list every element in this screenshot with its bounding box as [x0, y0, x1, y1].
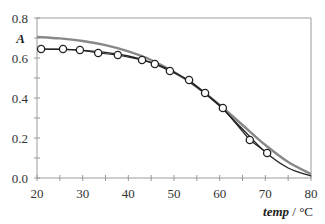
data-point-marker	[114, 51, 121, 58]
data-point-marker	[166, 67, 173, 74]
x-axis-title: temp / °C	[263, 204, 313, 219]
data-point-marker	[76, 46, 83, 53]
data-point-marker	[151, 60, 158, 67]
x-tick-label: 70	[259, 186, 272, 201]
y-tick-label: 0.4	[12, 91, 29, 106]
data-point-marker	[246, 136, 253, 143]
x-tick-label: 50	[168, 186, 181, 201]
series-layer	[37, 37, 311, 176]
y-tick-label: 0.2	[12, 131, 28, 146]
y-tick-label: 0.0	[12, 171, 28, 186]
data-point-marker	[38, 45, 45, 52]
fit-curve-black	[37, 49, 311, 176]
data-point-marker	[264, 149, 271, 156]
y-tick-label: 0.6	[12, 51, 29, 66]
data-point-marker	[95, 49, 102, 56]
labels: 203040506070800.00.20.40.60.8Atemp / °C	[12, 11, 318, 220]
x-tick-label: 20	[31, 186, 44, 201]
x-tick-label: 30	[76, 186, 89, 201]
data-point-marker	[59, 45, 66, 52]
data-point-marker	[201, 89, 208, 96]
y-tick-label: 0.8	[12, 11, 28, 26]
x-tick-label: 40	[122, 186, 135, 201]
x-tick-label: 60	[213, 186, 226, 201]
x-tick-label: 80	[305, 186, 318, 201]
data-point-marker	[219, 104, 226, 111]
y-axis-title: A	[15, 31, 25, 46]
data-point-marker	[138, 56, 145, 63]
chart: 203040506070800.00.20.40.60.8Atemp / °C	[0, 0, 325, 224]
data-point-marker	[185, 76, 192, 83]
